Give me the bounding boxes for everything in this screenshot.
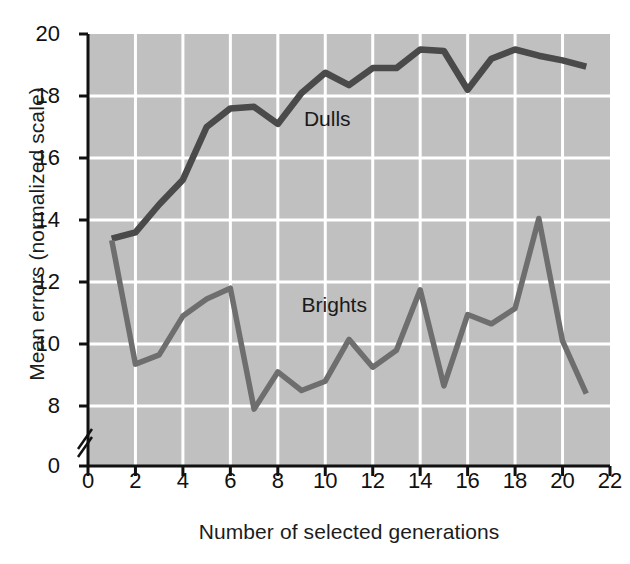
x-tick-label: 16 [448,470,488,492]
x-tick-label: 20 [543,470,583,492]
x-tick-label: 2 [115,470,155,492]
chart-figure: 81012141618200 0246810121416182022 Mean … [0,0,630,564]
x-tick-label: 22 [590,470,630,492]
x-tick-label: 6 [210,470,250,492]
y-axis-label: Mean errors (normalized scale) [25,29,49,439]
x-tick-label: 12 [353,470,393,492]
x-tick-label: 14 [400,470,440,492]
x-tick-label: 10 [305,470,345,492]
x-tick-label: 0 [68,470,108,492]
x-tick-label: 18 [495,470,535,492]
x-tick-label: 8 [258,470,298,492]
x-axis-label: Number of selected generations [88,520,610,544]
series-label-brights: Brights [302,293,367,317]
x-axis-ticks: 0246810121416182022 [0,0,630,564]
series-label-dulls: Dulls [304,107,351,131]
x-tick-label: 4 [163,470,203,492]
